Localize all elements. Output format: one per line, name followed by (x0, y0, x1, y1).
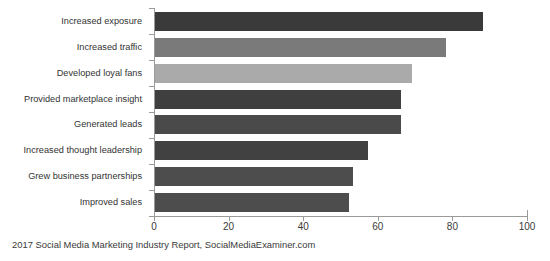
bar-row (155, 193, 528, 212)
bar-row (155, 12, 528, 31)
bar-row (155, 141, 528, 160)
category-label: Generated leads (0, 115, 148, 134)
category-label: Increased traffic (0, 38, 148, 57)
category-label: Grew business partnerships (0, 167, 148, 186)
category-axis-labels: Increased exposure Increased traffic Dev… (0, 12, 148, 212)
category-label: Increased thought leadership (0, 141, 148, 160)
x-axis-tick-label: 0 (151, 221, 157, 232)
category-label: Developed loyal fans (0, 64, 148, 83)
bar-row (155, 38, 528, 57)
x-axis-tick-label: 20 (223, 221, 234, 232)
bar-row (155, 90, 528, 109)
bar (155, 141, 368, 160)
category-label: Increased exposure (0, 12, 148, 31)
bar (155, 115, 401, 134)
y-axis-tick (149, 8, 155, 9)
horizontal-bar-chart: Increased exposure Increased traffic Dev… (0, 0, 550, 261)
x-axis-tick-label: 40 (298, 221, 309, 232)
plot-area: Increased exposure Increased traffic Dev… (0, 0, 550, 232)
category-label: Provided marketplace insight (0, 90, 148, 109)
bars-group (155, 12, 528, 212)
bar (155, 167, 353, 186)
bar-row (155, 64, 528, 83)
bar-row (155, 167, 528, 186)
x-axis-tick-label: 80 (447, 221, 458, 232)
bar (155, 90, 401, 109)
bar-row (155, 115, 528, 134)
category-label: Improved sales (0, 193, 148, 212)
x-axis-line (154, 216, 528, 217)
chart-caption: 2017 Social Media Marketing Industry Rep… (12, 239, 315, 250)
bar (155, 64, 412, 83)
bar (155, 38, 446, 57)
bar (155, 12, 483, 31)
bar (155, 193, 349, 212)
x-axis-tick-label: 60 (372, 221, 383, 232)
x-axis-tick-label: 100 (519, 221, 536, 232)
